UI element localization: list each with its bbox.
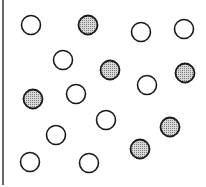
open-circle [54,51,73,70]
filled-circle [161,118,180,137]
filled-circle [131,140,150,159]
filled-circle [24,90,43,109]
particle-diagram [0,0,206,187]
open-circle [67,85,86,104]
filled-circle [79,16,98,35]
open-circle [21,153,40,172]
open-circle [22,16,41,35]
open-circle [175,20,194,39]
open-circle [132,23,151,42]
open-circle [47,126,66,145]
circle-group [21,16,195,173]
filled-circle [101,61,120,80]
open-circle [138,76,157,95]
open-circle [97,111,116,130]
open-circle [80,154,99,173]
filled-circle [176,64,195,83]
